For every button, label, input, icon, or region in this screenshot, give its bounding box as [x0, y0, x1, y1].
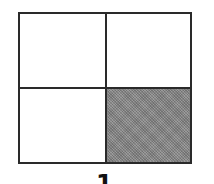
figure-label: 1	[96, 172, 113, 184]
shaded-cell-bottom-right	[107, 89, 190, 162]
horizontal-divider	[20, 87, 190, 89]
two-by-two-grid	[18, 12, 192, 164]
